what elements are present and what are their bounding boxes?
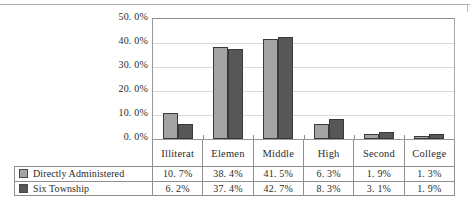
bar-group-college (404, 19, 454, 139)
category-label-2: Middle (253, 140, 303, 167)
y-axis: 50. 0% 40. 0% 30. 0% 20. 0% 10. 0% 0. 0% (104, 12, 148, 142)
bar-group-high (304, 19, 354, 139)
bars-layer (153, 19, 454, 139)
value-s1-c0: 10. 7% (153, 167, 203, 182)
bar-s2-high (329, 119, 344, 139)
legend-label-series-2: Six Township (33, 183, 89, 194)
value-s2-c3: 8. 3% (303, 181, 353, 196)
value-s2-c2: 42. 7% (253, 181, 303, 196)
bar-s1-college (414, 136, 429, 139)
bar-group-second (354, 19, 404, 139)
bar-s1-illiterat (163, 113, 178, 139)
legend-label-series-1: Directly Administered (33, 168, 124, 179)
x-axis-tick-4 (354, 135, 355, 139)
plot-area (152, 18, 455, 140)
value-s1-c4: 1. 9% (354, 167, 404, 182)
legend-row-series-1: Directly Administered (15, 167, 154, 182)
value-s1-c1: 38. 4% (203, 167, 253, 182)
category-header-row: Illiterat Elemen Middle High Second Coll… (153, 140, 455, 167)
x-axis-tick-2 (253, 135, 254, 139)
bar-s1-middle (263, 39, 278, 139)
bar-s2-middle (278, 37, 293, 139)
bar-s2-illiterat (178, 124, 193, 139)
category-label-0: Illiterat (153, 140, 203, 167)
bar-s2-second (379, 132, 394, 139)
value-s2-c4: 3. 1% (354, 181, 404, 196)
bar-s1-high (314, 124, 329, 139)
y-axis-tick-10: 10. 0% (104, 108, 148, 118)
bar-s1-elemen (213, 47, 228, 139)
bar-group-middle (253, 19, 303, 139)
bar-group-elemen (203, 19, 253, 139)
table-row-series-2: 6. 2% 37. 4% 42. 7% 8. 3% 3. 1% 1. 9% (153, 181, 455, 196)
legend: Directly Administered Six Township (14, 166, 153, 196)
x-axis-tick-3 (304, 135, 305, 139)
y-axis-tick-0: 0. 0% (104, 132, 148, 142)
category-label-5: College (404, 140, 454, 167)
x-axis-tick-5 (404, 135, 405, 139)
category-label-1: Elemen (203, 140, 253, 167)
value-s2-c0: 6. 2% (153, 181, 203, 196)
value-s2-c1: 37. 4% (203, 181, 253, 196)
bar-group-illiterat (153, 19, 203, 139)
table-row-series-1: 10. 7% 38. 4% 41. 5% 6. 3% 1. 9% 1. 3% (153, 167, 455, 182)
value-s1-c2: 41. 5% (253, 167, 303, 182)
y-axis-tick-20: 20. 0% (104, 84, 148, 94)
y-axis-tick-50: 50. 0% (104, 12, 148, 22)
legend-swatch-icon-series-1 (19, 169, 28, 178)
legend-swatch-icon-series-2 (19, 184, 28, 193)
y-axis-tick-40: 40. 0% (104, 36, 148, 46)
bar-s2-college (429, 134, 444, 139)
y-axis-tick-30: 30. 0% (104, 60, 148, 70)
bar-s1-second (364, 134, 379, 139)
value-s2-c5: 1. 9% (404, 181, 454, 196)
category-label-3: High (303, 140, 353, 167)
legend-row-series-2: Six Township (15, 181, 154, 196)
bar-s2-elemen (228, 49, 243, 139)
chart-data-table: Illiterat Elemen Middle High Second Coll… (152, 140, 455, 196)
value-s1-c3: 6. 3% (303, 167, 353, 182)
bar-chart: 50. 0% 40. 0% 30. 0% 20. 0% 10. 0% 0. 0% (0, 0, 470, 155)
x-axis-tick-1 (203, 135, 204, 139)
value-s1-c5: 1. 3% (404, 167, 454, 182)
category-label-4: Second (354, 140, 404, 167)
